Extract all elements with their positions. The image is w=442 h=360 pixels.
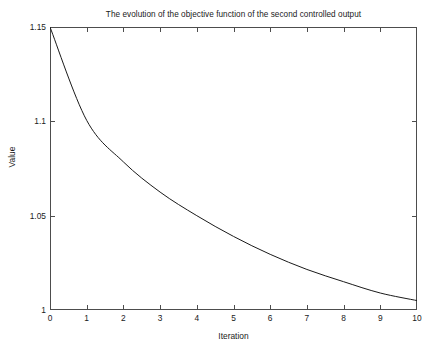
x-tick-label: 9	[378, 313, 383, 323]
x-tick-label: 2	[121, 313, 126, 323]
x-tick-label: 10	[412, 313, 421, 323]
x-tick-label: 3	[158, 313, 163, 323]
x-tick-label: 7	[305, 313, 310, 323]
y-tick-label: 1	[41, 305, 46, 315]
plot-svg	[50, 27, 417, 310]
y-axis-label: Value	[7, 137, 17, 177]
x-axis-tick-labels: 012345678910	[50, 313, 417, 327]
axis-ticks	[51, 28, 417, 310]
axis-frame	[51, 28, 417, 310]
x-tick-label: 6	[268, 313, 273, 323]
series-line-objective	[50, 27, 417, 301]
figure-canvas: The evolution of the objective function …	[0, 0, 442, 360]
y-tick-label: 1.1	[34, 116, 46, 126]
x-tick-label: 1	[84, 313, 89, 323]
x-tick-label: 4	[194, 313, 199, 323]
y-tick-label: 1.05	[30, 211, 46, 221]
x-tick-label: 8	[341, 313, 346, 323]
x-tick-label: 0	[48, 313, 53, 323]
chart-title: The evolution of the objective function …	[50, 10, 417, 19]
plot-area	[50, 27, 417, 310]
x-axis-label: Iteration	[50, 331, 417, 341]
data-series	[50, 27, 417, 301]
x-tick-label: 5	[231, 313, 236, 323]
y-tick-label: 1.15	[30, 22, 46, 32]
axis-box	[51, 28, 417, 310]
